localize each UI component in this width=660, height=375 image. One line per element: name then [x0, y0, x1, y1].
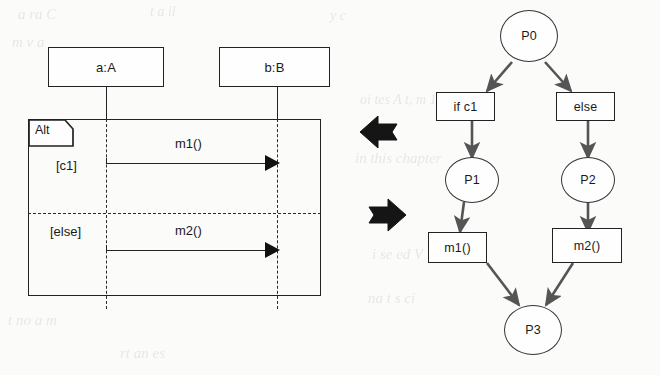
message-line-m2[interactable]	[106, 250, 270, 251]
guard-c1: [c1]	[56, 158, 77, 173]
place-p1[interactable]: P1	[445, 157, 499, 203]
message-label-m2: m2()	[175, 223, 202, 238]
ghost-text: oi tes A t, m 1	[360, 92, 437, 108]
place-label-p0: P0	[521, 29, 536, 43]
place-p3[interactable]: P3	[504, 305, 562, 355]
transition-label-else: else	[574, 100, 598, 114]
transform-arrow-left-icon	[358, 113, 408, 155]
lifeline-dashed-a	[106, 119, 107, 309]
lifeline-head-a[interactable]: a:A	[48, 47, 164, 87]
lifeline-label-a: a:A	[96, 60, 116, 75]
message-origin-tick-m2	[106, 245, 107, 251]
lifeline-dashed-b	[277, 119, 278, 309]
place-p0[interactable]: P0	[500, 10, 558, 62]
message-arrowhead-m1	[265, 155, 280, 171]
message-label-m1: m1()	[175, 136, 202, 151]
ghost-text: na t s ci	[368, 290, 415, 307]
transition-if-c1[interactable]: if c1	[436, 92, 495, 121]
lifeline-stub-b	[277, 87, 278, 119]
message-origin-tick-m1	[106, 158, 107, 164]
transition-label-m2: m2()	[574, 239, 601, 253]
lifeline-head-b[interactable]: b:B	[219, 47, 330, 87]
place-label-p3: P3	[525, 323, 540, 337]
guard-else: [else]	[50, 224, 81, 239]
transition-m2[interactable]: m2()	[552, 228, 622, 263]
place-p2[interactable]: P2	[561, 157, 615, 203]
place-label-p1: P1	[464, 173, 479, 187]
ghost-text: t no a m	[8, 312, 57, 329]
message-arrowhead-m2	[265, 242, 280, 258]
ghost-text: y c	[330, 8, 346, 24]
ghost-text: a ra C	[18, 6, 56, 23]
lifeline-stub-a	[106, 87, 107, 119]
ghost-text: m v a	[12, 34, 45, 51]
operand-separator	[28, 213, 321, 214]
transform-arrow-right-icon	[358, 196, 408, 238]
transition-label-m1: m1()	[444, 241, 471, 255]
lifeline-label-b: b:B	[264, 60, 284, 75]
transition-else[interactable]: else	[556, 92, 615, 121]
message-line-m1[interactable]	[106, 163, 270, 164]
alt-operator-label: Alt	[35, 123, 50, 137]
ghost-text: i se ed V	[372, 246, 423, 263]
ghost-text: t a il	[150, 4, 176, 20]
transition-m1[interactable]: m1()	[428, 232, 487, 263]
figure-canvas: a ra C t a il y c m v a in this chapter …	[0, 0, 660, 375]
place-label-p2: P2	[580, 173, 595, 187]
transition-label-if-c1: if c1	[454, 100, 478, 114]
ghost-text: rt an es	[120, 345, 165, 362]
